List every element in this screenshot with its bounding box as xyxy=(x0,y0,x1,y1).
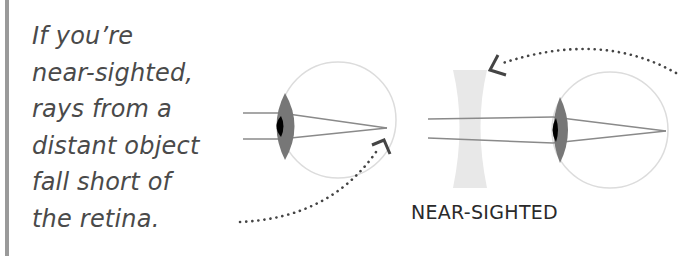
eyeball-outline xyxy=(552,72,668,188)
incoming-ray xyxy=(428,138,553,143)
near-sighted-label: NEAR-SIGHTED xyxy=(411,201,558,223)
refracted-ray xyxy=(553,117,666,131)
concave-lens xyxy=(453,70,487,188)
refracted-ray xyxy=(553,131,666,143)
eye-diagram xyxy=(0,0,679,256)
uncorrected-eye xyxy=(243,62,396,178)
corrected-eye xyxy=(428,70,668,188)
incoming-ray xyxy=(428,117,553,119)
dotted-arrow-to-lens xyxy=(490,49,676,75)
eyeball-outline xyxy=(280,62,396,178)
